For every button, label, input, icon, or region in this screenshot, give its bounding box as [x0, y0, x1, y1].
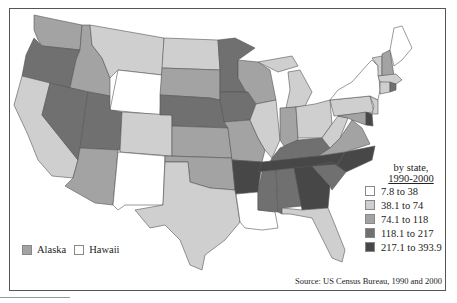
legend-swatch: [365, 200, 375, 210]
state-fl: [282, 208, 345, 262]
legend-swatch: [365, 242, 375, 252]
state-in: [280, 107, 298, 146]
state-nd: [162, 38, 220, 70]
state-ny: [330, 60, 380, 100]
state-wy: [110, 70, 162, 115]
state-ks: [172, 126, 232, 158]
state-ar: [232, 160, 262, 194]
state-co: [120, 112, 172, 156]
legend-item: 118.1 to 217: [365, 226, 451, 240]
legend-label: 38.1 to 74: [381, 200, 423, 211]
legend-label: 217.1 to 393.9: [381, 242, 442, 253]
legend-swatch: [365, 186, 375, 196]
legend-label: 74.1 to 118: [381, 214, 428, 225]
hawaii-label: Hawaii: [89, 244, 119, 255]
legend-item: 38.1 to 74: [365, 198, 451, 212]
us-choropleth-map: [0, 0, 457, 303]
hawaii-swatch: [74, 245, 84, 255]
state-ms: [258, 170, 278, 212]
legend-title-line2: 1990-2000: [371, 173, 451, 184]
state-wa: [34, 15, 82, 50]
state-me: [390, 26, 412, 66]
legend-title: by state, 1990-2000: [371, 162, 451, 184]
alaska-swatch: [22, 245, 32, 255]
inset-legend: Alaska Hawaii: [22, 244, 120, 255]
state-nm: [113, 152, 165, 210]
state-io: [220, 92, 256, 122]
legend-item: 7.8 to 38: [365, 184, 451, 198]
legend-swatch: [365, 228, 375, 238]
legend-label: 118.1 to 217: [381, 228, 433, 239]
state-ri: [390, 82, 396, 92]
legend-item: 74.1 to 118: [365, 212, 451, 226]
source-note: Source: US Census Bureau, 1990 and 2000: [295, 276, 442, 286]
legend-title-line1: by state,: [371, 162, 451, 173]
divider: [0, 297, 70, 298]
state-ct: [380, 82, 390, 94]
state-sd: [160, 68, 220, 100]
legend-swatch: [365, 214, 375, 224]
legend-item: 217.1 to 393.9: [365, 240, 451, 254]
legend-label: 7.8 to 38: [381, 186, 418, 197]
alaska-label: Alaska: [37, 244, 66, 255]
legend: by state, 1990-2000 7.8 to 38 38.1 to 74…: [365, 162, 451, 254]
